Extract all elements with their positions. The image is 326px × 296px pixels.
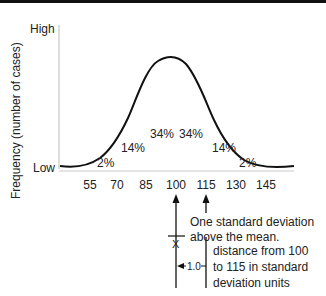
y-axis-label: Frequency (number of cases) xyxy=(9,42,23,199)
x-tick-85: 85 xyxy=(139,178,153,192)
distance-note-line3: deviation units xyxy=(213,276,290,290)
distance-note-line2: to 115 in standard xyxy=(213,260,308,274)
pct-115-130: 14% xyxy=(212,141,236,155)
pct-130-145: 2% xyxy=(239,156,257,170)
y-tick-high: High xyxy=(30,22,55,36)
x-tick-145: 145 xyxy=(256,178,276,192)
sd-note-line2: above the mean. xyxy=(190,230,279,244)
sd-note-line1: One standard deviation xyxy=(190,215,314,229)
pct-55-70: 2% xyxy=(97,156,115,170)
x-tick-55: 55 xyxy=(83,178,97,192)
x-tick-115: 115 xyxy=(196,178,215,192)
arrow-up-100-icon xyxy=(173,194,180,203)
xbar-label: X xyxy=(172,238,180,250)
normal-distribution-diagram: Frequency (number of cases) High Low 2% … xyxy=(0,0,326,296)
x-tick-100: 100 xyxy=(166,178,186,192)
bell-curve xyxy=(60,57,294,167)
pct-85-100: 34% xyxy=(150,127,174,141)
pct-100-115: 34% xyxy=(179,127,203,141)
pct-70-85: 14% xyxy=(121,141,145,155)
distance-note-line1: distance from 100 xyxy=(213,244,309,258)
y-tick-low: Low xyxy=(33,161,55,175)
arrow-up-115-icon xyxy=(203,194,210,203)
x-tick-130: 130 xyxy=(226,178,246,192)
unit-value: 1.0 xyxy=(187,261,201,272)
x-tick-70: 70 xyxy=(110,178,124,192)
